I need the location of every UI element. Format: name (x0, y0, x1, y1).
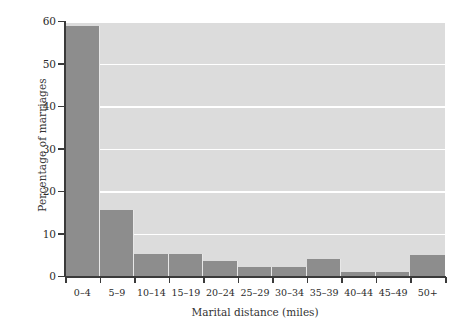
y-tick-60: 60 (0, 14, 65, 28)
y-tick-label: 0 (49, 269, 56, 283)
bar (169, 254, 204, 276)
x-tick-label: 20–24 (203, 287, 238, 298)
x-tick-label: 40–44 (341, 287, 376, 298)
bar-slot (307, 21, 342, 276)
x-tick-label: 15–19 (169, 287, 204, 298)
x-tick-mark (134, 277, 136, 283)
chart-figure: Percentage of marriages 0102030405060 0–… (0, 0, 464, 329)
bar-slot (341, 21, 376, 276)
bar-series (65, 21, 445, 276)
y-tick-label: 60 (43, 14, 56, 28)
x-tick-mark (100, 277, 102, 283)
bar-slot (410, 21, 445, 276)
bar-slot (272, 21, 307, 276)
y-tick-label: 10 (43, 227, 56, 241)
x-tick-mark (307, 277, 309, 283)
y-tick-label: 20 (43, 184, 56, 198)
bar (307, 259, 342, 276)
bar (410, 255, 445, 276)
y-tick-40: 40 (0, 99, 65, 113)
x-tick-mark (169, 277, 171, 283)
y-tick-label: 50 (43, 57, 56, 71)
y-tick-30: 30 (0, 142, 65, 156)
x-tick-label: 0–4 (65, 287, 100, 298)
bar (100, 210, 135, 276)
x-tick-mark (445, 277, 447, 283)
bar-slot (203, 21, 238, 276)
plot-area (65, 21, 445, 276)
bar (272, 267, 307, 276)
y-tick-50: 50 (0, 57, 65, 71)
x-tick-mark (238, 277, 240, 283)
y-tick-10: 10 (0, 227, 65, 241)
x-axis-tick-labels: 0–45–910–1415–1920–2425–2930–3435–3940–4… (65, 287, 445, 298)
x-tick-mark (203, 277, 205, 283)
bar-slot (376, 21, 411, 276)
bar (65, 26, 100, 276)
bar-slot (65, 21, 100, 276)
y-tick-label: 30 (43, 142, 56, 156)
y-tick-label: 40 (43, 99, 56, 113)
y-tick-20: 20 (0, 184, 65, 198)
bar-slot (100, 21, 135, 276)
x-tick-label: 30–34 (272, 287, 307, 298)
x-tick-label: 5–9 (100, 287, 135, 298)
bar-slot (134, 21, 169, 276)
x-tick-label: 50+ (410, 287, 445, 298)
x-tick-mark (65, 277, 67, 283)
x-tick-mark (341, 277, 343, 283)
y-axis-line (64, 21, 66, 277)
bar (238, 267, 273, 276)
bar (203, 261, 238, 276)
x-tick-label: 45–49 (376, 287, 411, 298)
bar-slot (238, 21, 273, 276)
x-tick-mark (410, 277, 412, 283)
x-tick-mark (272, 277, 274, 283)
x-tick-mark (376, 277, 378, 283)
x-tick-label: 35–39 (307, 287, 342, 298)
x-axis-title: Marital distance (miles) (65, 306, 445, 318)
x-tick-label: 10–14 (134, 287, 169, 298)
y-tick-0: 0 (0, 269, 65, 283)
x-tick-label: 25–29 (238, 287, 273, 298)
bar (134, 254, 169, 276)
bar-slot (169, 21, 204, 276)
x-axis-line (65, 276, 446, 278)
